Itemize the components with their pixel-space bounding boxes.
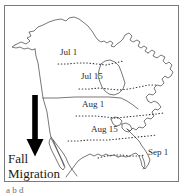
arrow-shaft [32, 95, 38, 141]
fall-migration-label: Fall Migration [8, 152, 80, 181]
isochrone-label-sep-1: Sep 1 [148, 148, 168, 157]
isochrone-label-aug-1: Aug 1 [82, 100, 104, 109]
figure-root: Jul 1 Jul 15 Aug 1 Aug 15 Sep 1 Fall Mig… [0, 0, 186, 196]
eastern-canada-coast [127, 101, 161, 131]
isochrone-label-jul-15: Jul 15 [81, 72, 103, 81]
isochrone-line-aug-1 [76, 113, 164, 118]
fall-migration-line-1: Fall [8, 152, 80, 167]
fall-migration-line-2: Migration [8, 167, 80, 182]
alaska-coastline [15, 17, 148, 53]
great-lakes-lower [122, 123, 132, 132]
isochrone-line-aug-15 [68, 135, 157, 141]
isochrone-label-jul-1: Jul 1 [60, 48, 77, 57]
canada-arctic-coast [146, 50, 173, 101]
figure-caption: a b d [6, 185, 184, 196]
isochrone-line-sep-1 [98, 155, 145, 158]
isochrone-line-jul-15 [79, 85, 157, 90]
fall-migration-arrow-icon [26, 95, 44, 157]
alaska-peninsula [12, 45, 35, 50]
us-east-coast [118, 129, 150, 169]
isochrone-label-aug-15: Aug 15 [91, 125, 118, 134]
isochrone-lines-group [58, 61, 164, 158]
